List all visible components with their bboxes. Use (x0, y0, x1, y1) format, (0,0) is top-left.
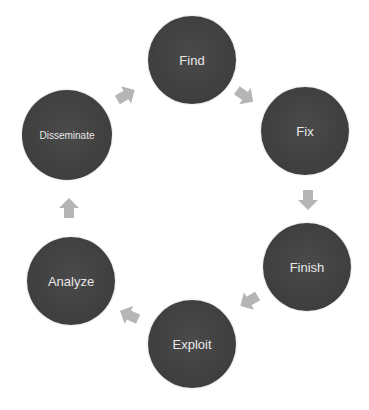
node-disseminate-label: Disseminate (39, 130, 94, 141)
node-find-label: Find (179, 53, 204, 68)
cycle-diagram: Find Fix Finish Exploit Analyze Dissemin… (0, 0, 369, 410)
node-exploit-label: Exploit (172, 337, 211, 352)
arrow-analyze-to-disseminate-icon (58, 197, 80, 219)
node-fix: Fix (261, 87, 349, 175)
node-disseminate: Disseminate (22, 90, 112, 180)
node-analyze: Analyze (27, 237, 115, 325)
arrow-exploit-to-analyze-icon (114, 300, 143, 329)
node-find: Find (148, 16, 236, 104)
arrow-fix-to-finish-icon (297, 189, 319, 211)
node-fix-label: Fix (296, 124, 313, 139)
node-finish-label: Finish (290, 260, 325, 275)
node-finish: Finish (263, 223, 351, 311)
node-exploit: Exploit (148, 300, 236, 388)
arrow-disseminate-to-find-icon (111, 80, 141, 110)
arrow-finish-to-exploit-icon (234, 286, 264, 316)
node-analyze-label: Analyze (48, 274, 94, 289)
arrow-find-to-fix-icon (230, 81, 261, 112)
